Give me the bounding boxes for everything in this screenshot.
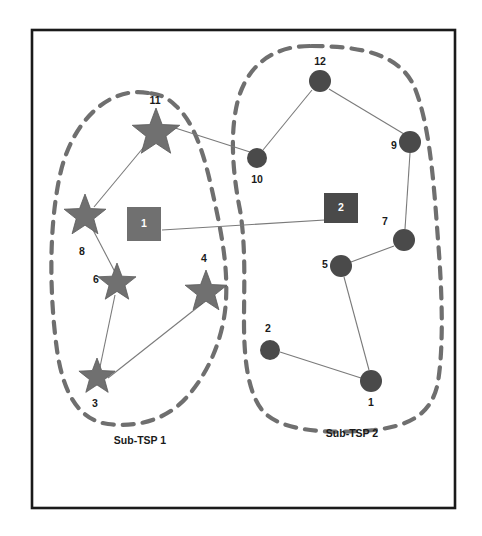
star-node-icon[interactable] [132,108,180,153]
node-label-2: 2 [265,322,271,334]
tour-edge-11-8 [94,142,148,207]
tour-edge-9-7 [405,153,410,229]
circle-node-icon[interactable] [399,131,421,153]
node-label-8: 8 [79,245,85,257]
cluster-outline-1 [51,92,226,425]
node-label-6: 6 [93,273,99,285]
node-label-10: 10 [251,173,263,185]
star-node-icon[interactable] [98,263,136,299]
tour-edge-5-1 [344,277,369,370]
tsp-clustering-diagram: 12 118634121097521 Sub-TSP 1Sub-TSP 2 [0,0,482,536]
node-label-3: 3 [92,397,98,409]
tour-edge-7-5 [351,246,394,262]
tour-edge-12-9 [329,89,404,134]
tour-edge-8-6 [92,228,115,272]
circle-node-icon[interactable] [309,70,331,92]
node-label-12: 12 [314,55,326,67]
cluster-caption-2: Sub-TSP 2 [326,427,378,439]
figure-root: 12 118634121097521 Sub-TSP 1Sub-TSP 2 [0,0,482,536]
circle-node-icon[interactable] [393,229,415,251]
circle-node-icon[interactable] [330,255,352,277]
node-label-9: 9 [391,139,397,151]
node-label-5: 5 [322,258,328,270]
star-node-icon[interactable] [79,358,115,392]
circle-node-icon[interactable] [260,340,280,360]
depot-label: 2 [338,201,344,213]
node-label-1: 1 [368,396,374,408]
node-label-11: 11 [149,94,160,106]
cluster-captions-group: Sub-TSP 1Sub-TSP 2 [114,427,378,446]
cluster-caption-1: Sub-TSP 1 [114,434,166,446]
tour-edge-11-10 [169,126,250,152]
tour-edge-12-10 [263,90,312,150]
tour-edge-6-3 [100,295,115,367]
circle-node-icon[interactable] [247,148,267,168]
depot-marker-2[interactable]: 2 [324,193,358,223]
tour-edge-3-4 [108,303,203,378]
circle-node-icon[interactable] [360,370,382,392]
star-node-icon[interactable] [185,270,227,310]
depot-label: 1 [141,217,147,229]
tour-edge-1-2 [280,352,361,378]
depot-marker-1[interactable]: 1 [127,207,161,241]
node-label-4: 4 [201,252,207,264]
tour-edge-d1-d2 [162,219,341,230]
node-label-7: 7 [382,215,388,227]
